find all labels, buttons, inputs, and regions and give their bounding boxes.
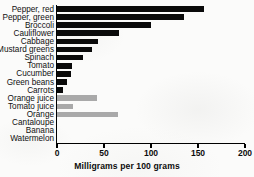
chart-row: Watermelon <box>0 135 254 143</box>
bar <box>57 55 83 61</box>
bar <box>57 104 73 110</box>
x-tick-label: 0 <box>42 148 72 158</box>
bar <box>57 87 63 93</box>
category-label: Watermelon <box>0 134 54 143</box>
bar <box>57 95 97 101</box>
bar <box>57 112 118 118</box>
bar <box>57 71 71 77</box>
bar <box>57 39 98 45</box>
x-tick-label: 150 <box>183 148 213 158</box>
bar <box>57 6 204 12</box>
x-axis-title: Milligrams per 100 grams <box>0 161 254 171</box>
bar <box>57 79 67 85</box>
x-tick-label: 50 <box>89 148 119 158</box>
bar <box>57 63 72 69</box>
bar <box>57 30 119 36</box>
bar <box>57 22 151 28</box>
bar <box>57 14 184 20</box>
bar <box>57 47 92 53</box>
x-tick-label: 100 <box>136 148 166 158</box>
vitamin-c-bar-chart: Pepper, redPepper, greenBroccoliCauliflo… <box>0 0 254 177</box>
x-tick-label: 200 <box>230 148 254 158</box>
